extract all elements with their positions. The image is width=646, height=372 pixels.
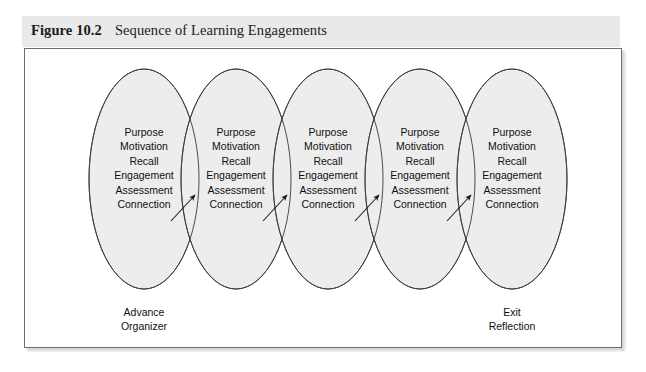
figure-caption-band: Figure 10.2Sequence of Learning Engageme… — [22, 16, 620, 47]
engagement-line: Engagement — [452, 168, 572, 182]
stage-label-line: Reflection — [447, 319, 577, 333]
stage-label-start: Advance Organizer — [79, 305, 209, 333]
figure-container: Figure 10.2Sequence of Learning Engageme… — [0, 0, 646, 372]
stage-label-line: Organizer — [79, 319, 209, 333]
engagement-line: Connection — [452, 197, 572, 211]
figure-caption: Figure 10.2Sequence of Learning Engageme… — [31, 22, 327, 39]
engagement-line: Motivation — [452, 139, 572, 153]
engagement-line: Recall — [452, 154, 572, 168]
figure-title: Sequence of Learning Engagements — [115, 22, 327, 38]
engagement-line: Purpose — [452, 125, 572, 139]
engagement-line: Assessment — [452, 183, 572, 197]
figure-number: Figure 10.2 — [31, 22, 102, 38]
sequence-diagram: Purpose Motivation Recall Engagement Ass… — [25, 49, 621, 347]
stage-label-line: Advance — [79, 305, 209, 319]
stage-label-line: Exit — [447, 305, 577, 319]
figure-frame: Purpose Motivation Recall Engagement Ass… — [24, 48, 622, 348]
engagement-text-5: Purpose Motivation Recall Engagement Ass… — [452, 125, 572, 211]
stage-label-end: Exit Reflection — [447, 305, 577, 333]
